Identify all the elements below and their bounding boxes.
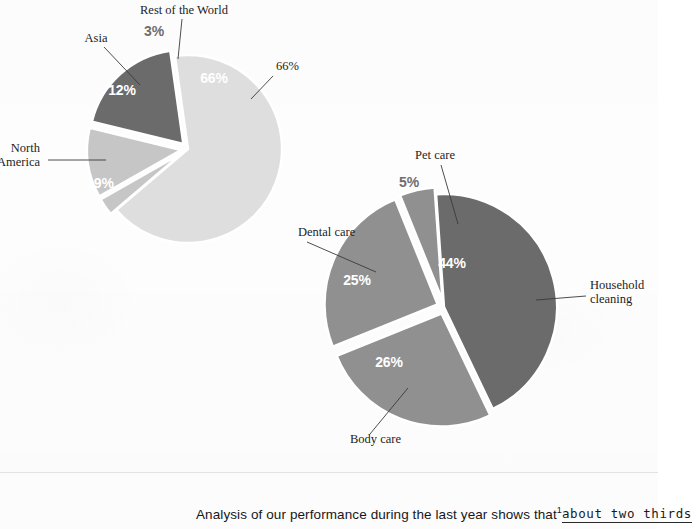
chart-sales-by-region: 66%66%Rest of the World3%Asia12%NorthAme… xyxy=(0,3,299,243)
slice-percent-household-cleaning: 44% xyxy=(438,255,466,271)
slice-percent-north-america: 19% xyxy=(86,175,114,191)
slice-label-north-america: NorthAmerica xyxy=(0,141,41,169)
caption-line: Analysis of our performance during the l… xyxy=(196,505,692,522)
slice-label-pet-care: Pet care xyxy=(415,148,455,162)
slice-percent-europe: 66% xyxy=(200,70,228,86)
slice-percent-rest-of-the-world: 3% xyxy=(144,23,165,39)
chart-sales-by-product-category: Householdcleaning44%Body care26%Dental c… xyxy=(298,148,645,446)
slice-percent-asia: 12% xyxy=(108,82,136,98)
slice-percent-body-care: 26% xyxy=(375,354,403,370)
slice-label-body-care: Body care xyxy=(350,432,401,446)
slice-percent-pet-care: 5% xyxy=(399,174,420,190)
caption-printed-text: Analysis of our performance during the l… xyxy=(196,506,557,521)
leader-line-rest-of-the-world xyxy=(178,19,182,59)
slice-label-asia: Asia xyxy=(85,31,108,45)
slice-label-europe: 66% xyxy=(276,59,299,73)
caption-band: Analysis of our performance during the l… xyxy=(0,472,658,529)
handwritten-answer: about two thirds xyxy=(562,506,692,523)
slice-percent-dental-care: 25% xyxy=(343,272,371,288)
slice-label-dental-care: Dental care xyxy=(298,225,356,239)
slice-label-household-cleaning: Householdcleaning xyxy=(590,278,645,306)
slice-label-rest-of-the-world: Rest of the World xyxy=(140,3,229,17)
pie-slice-north-america[interactable] xyxy=(92,51,183,144)
